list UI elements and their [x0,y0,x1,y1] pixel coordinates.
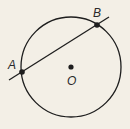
point-a [19,69,25,75]
label-o: O [67,74,76,88]
circle-diagram: A B O [0,0,130,129]
background [0,0,130,129]
label-a: A [7,58,16,72]
point-o-center [68,64,73,69]
point-b [94,22,100,28]
label-b: B [93,6,101,20]
